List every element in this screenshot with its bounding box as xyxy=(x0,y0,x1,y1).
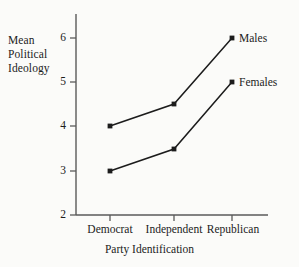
y-axis-title: Mean Political Ideology xyxy=(8,33,50,75)
y-tick-label-5: 5 xyxy=(50,76,66,88)
data-point-females-independent xyxy=(172,147,177,152)
y-axis-title-line-3: Ideology xyxy=(8,61,50,75)
data-point-females-democrat xyxy=(108,169,113,174)
series-label-males: Males xyxy=(239,33,267,45)
data-point-females-republican xyxy=(230,80,235,85)
data-point-males-republican xyxy=(230,36,235,41)
x-tick-label-republican: Republican xyxy=(194,224,272,236)
y-tick-label-3: 3 xyxy=(50,165,66,177)
x-axis-title: Party Identification xyxy=(0,243,299,255)
y-tick-label-4: 4 xyxy=(50,120,66,132)
series-line-females xyxy=(110,82,232,171)
series-label-females: Females xyxy=(239,77,277,89)
chart-container: Mean Political Ideology 6 5 4 3 2 Democr… xyxy=(0,0,299,267)
y-axis-title-line-2: Political xyxy=(8,47,50,61)
y-axis-title-line-1: Mean xyxy=(8,33,50,47)
y-tick-label-2: 2 xyxy=(50,209,66,221)
series-line-males xyxy=(110,38,232,126)
data-point-males-independent xyxy=(172,102,177,107)
data-point-males-democrat xyxy=(108,124,113,129)
y-tick-label-6: 6 xyxy=(50,32,66,44)
